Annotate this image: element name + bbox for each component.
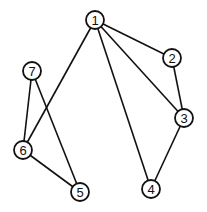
node-label: 5 <box>76 185 83 200</box>
node-2: 2 <box>163 49 181 67</box>
edge-1-4 <box>95 20 151 189</box>
edge-1-2 <box>95 20 172 58</box>
node-label: 7 <box>28 64 35 79</box>
edge-1-6 <box>23 20 95 150</box>
node-7: 7 <box>23 62 41 80</box>
node-6: 6 <box>14 141 32 159</box>
node-label: 3 <box>180 111 187 126</box>
node-label: 2 <box>168 51 175 66</box>
graph-diagram: 1234567 <box>0 0 207 212</box>
node-1: 1 <box>86 11 104 29</box>
nodes-layer: 1234567 <box>14 11 193 201</box>
edges-layer <box>23 20 184 192</box>
edge-7-6 <box>23 71 32 150</box>
node-label: 1 <box>91 13 98 28</box>
node-3: 3 <box>175 109 193 127</box>
node-label: 4 <box>147 182 154 197</box>
node-5: 5 <box>71 183 89 201</box>
node-4: 4 <box>142 180 160 198</box>
edge-1-3 <box>95 20 184 118</box>
node-label: 6 <box>19 143 26 158</box>
edge-3-4 <box>151 118 184 189</box>
